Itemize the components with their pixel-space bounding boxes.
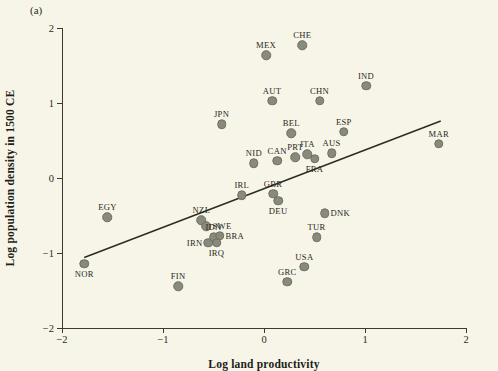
data-point-marker[interactable] bbox=[273, 196, 283, 206]
data-point-label: NOR bbox=[75, 269, 94, 279]
data-point-label: IRL bbox=[234, 180, 249, 190]
data-point-label: CHN bbox=[310, 86, 329, 96]
x-tick-mark bbox=[62, 328, 63, 333]
x-tick-mark bbox=[466, 328, 467, 333]
data-point-marker[interactable] bbox=[315, 96, 325, 106]
data-point-label: ESP bbox=[336, 117, 352, 127]
data-point-label: MAR bbox=[428, 129, 448, 139]
data-point-label: CAN bbox=[268, 146, 287, 156]
y-tick-label: 2 bbox=[49, 23, 54, 34]
plot-area: −2−1012 −2−1012 NOREGYFINNZLSWEIRNIDNIRQ… bbox=[62, 28, 466, 328]
data-point-marker[interactable] bbox=[237, 191, 247, 201]
x-tick-label: 1 bbox=[362, 334, 367, 345]
data-point-label: DNK bbox=[331, 208, 351, 218]
data-point-marker[interactable] bbox=[320, 209, 330, 219]
panel-label: (a) bbox=[30, 4, 42, 16]
data-point-marker[interactable] bbox=[287, 128, 297, 138]
data-point-marker[interactable] bbox=[261, 50, 271, 60]
x-tick-label: −2 bbox=[56, 334, 67, 345]
data-point-label: BRA bbox=[226, 231, 245, 241]
y-tick-label: −2 bbox=[43, 323, 54, 334]
data-point-label: IRQ bbox=[209, 248, 225, 258]
data-point-marker[interactable] bbox=[173, 281, 183, 291]
data-point-marker[interactable] bbox=[310, 154, 320, 164]
data-point-marker[interactable] bbox=[103, 212, 113, 222]
data-point-label: IRN bbox=[187, 238, 203, 248]
data-point-marker[interactable] bbox=[327, 149, 337, 159]
x-tick-label: 0 bbox=[261, 334, 266, 345]
data-point-marker[interactable] bbox=[215, 231, 225, 241]
y-tick-label: 1 bbox=[49, 98, 54, 109]
x-tick-mark bbox=[264, 328, 265, 333]
data-point-label: FRA bbox=[306, 164, 324, 174]
data-point-marker[interactable] bbox=[272, 156, 282, 166]
data-point-label: NID bbox=[246, 148, 262, 158]
data-point-label: AUS bbox=[323, 138, 341, 148]
data-point-label: TUR bbox=[307, 222, 325, 232]
data-point-label: CHE bbox=[293, 30, 311, 40]
x-tick-label: −1 bbox=[157, 334, 168, 345]
data-point-label: ITA bbox=[300, 139, 315, 149]
data-point-marker[interactable] bbox=[217, 119, 227, 129]
data-point-marker[interactable] bbox=[434, 139, 444, 149]
data-point-marker[interactable] bbox=[282, 277, 292, 287]
data-point-label: AUT bbox=[263, 86, 282, 96]
data-point-marker[interactable] bbox=[291, 152, 301, 162]
data-point-marker[interactable] bbox=[339, 127, 349, 137]
data-point-series: NOREGYFINNZLSWEIRNIDNIRQBRAJPNIRLNIDMEXA… bbox=[62, 28, 466, 328]
data-point-label: USA bbox=[295, 252, 313, 262]
data-point-marker[interactable] bbox=[298, 41, 308, 51]
x-tick-mark bbox=[365, 328, 366, 333]
data-point-marker[interactable] bbox=[312, 233, 322, 243]
y-tick-label: 0 bbox=[49, 173, 54, 184]
x-tick-mark bbox=[163, 328, 164, 333]
data-point-marker[interactable] bbox=[361, 81, 371, 91]
data-point-label: FIN bbox=[171, 271, 186, 281]
data-point-marker[interactable] bbox=[267, 96, 277, 106]
x-tick-label: 2 bbox=[463, 334, 468, 345]
data-point-marker[interactable] bbox=[79, 259, 89, 269]
data-point-label: BEL bbox=[283, 118, 300, 128]
x-axis-title: Log land productivity bbox=[62, 358, 466, 370]
data-point-marker[interactable] bbox=[300, 262, 310, 272]
data-point-label: GBR bbox=[264, 179, 283, 189]
scatter-plot-figure: (a) −2−1012 −2−1012 NOREGYFINNZLSWEIRNID… bbox=[0, 0, 498, 371]
data-point-label: GRC bbox=[278, 267, 297, 277]
y-tick-label: −1 bbox=[43, 248, 54, 259]
data-point-label: EGY bbox=[98, 202, 117, 212]
data-point-label: JPN bbox=[214, 109, 229, 119]
y-axis-title: Log population density in 1500 CE bbox=[4, 90, 16, 267]
data-point-label: DEU bbox=[269, 206, 288, 216]
data-point-marker[interactable] bbox=[249, 158, 259, 168]
data-point-label: MEX bbox=[256, 40, 276, 50]
data-point-label: NZL bbox=[193, 205, 211, 215]
data-point-label: IND bbox=[358, 71, 374, 81]
